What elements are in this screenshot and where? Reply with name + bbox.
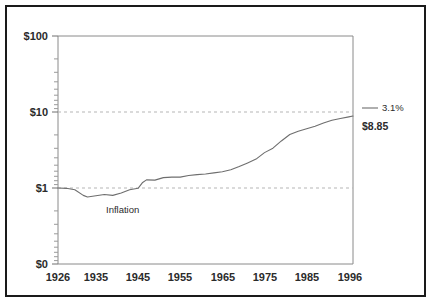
series-annotation-inflation: Inflation [106,204,139,215]
y-tick-label-0: $0 [36,258,48,270]
legend-end-value-label: $8.85 [362,120,388,132]
x-tick-label-1926: 1926 [46,271,70,283]
plot-area-background [58,36,353,264]
y-tick-label-10: $10 [30,106,48,118]
x-tick-label-1955: 1955 [168,271,192,283]
y-axis-minor-ticks [54,59,58,261]
x-tick-label-1996: 1996 [338,271,362,283]
chart-svg: $100 $10 $1 $0 1926 1935 1945 1955 1965 … [0,0,433,304]
x-tick-label-1945: 1945 [126,271,150,283]
x-tick-label-1985: 1985 [295,271,319,283]
legend-percent-label: 3.1% [382,102,404,113]
x-tick-label-1975: 1975 [253,271,277,283]
x-tick-label-1965: 1965 [211,271,235,283]
y-tick-label-1: $1 [36,182,48,194]
inflation-growth-chart: $100 $10 $1 $0 1926 1935 1945 1955 1965 … [0,0,433,304]
y-axis-major-ticks [52,36,58,264]
y-tick-label-100: $100 [24,30,48,42]
x-tick-label-1935: 1935 [84,271,108,283]
